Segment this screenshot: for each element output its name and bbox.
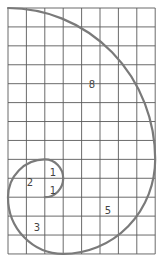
grid xyxy=(8,8,155,254)
label-square-8: 8 xyxy=(89,79,95,90)
square-labels: 1 1 2 3 5 8 xyxy=(27,79,111,233)
label-square-2: 2 xyxy=(27,177,33,188)
label-square-1a: 1 xyxy=(50,167,56,178)
label-square-3: 3 xyxy=(34,222,40,233)
fibonacci-spiral-diagram: 1 1 2 3 5 8 xyxy=(0,0,165,262)
label-square-5: 5 xyxy=(105,205,111,216)
label-square-1b: 1 xyxy=(50,185,56,196)
